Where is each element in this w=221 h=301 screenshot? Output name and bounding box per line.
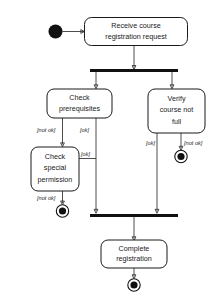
check-special-permission-node[interactable]: Check special permission (31, 147, 79, 191)
check-prerequisites-line1: Check (69, 93, 90, 102)
check-special-line2: special (44, 163, 67, 172)
guard-verify-ok: [ok] (145, 140, 155, 146)
end-node-special-permission-denied[interactable] (56, 205, 68, 217)
start-node[interactable] (49, 25, 63, 39)
receive-line2: registration request (105, 32, 167, 41)
complete-line2: registration (116, 254, 152, 263)
check-special-line3: permission (38, 175, 73, 184)
verify-line2: course not (160, 105, 194, 114)
check-special-line1: Check (45, 152, 66, 161)
end-node-course-full[interactable] (175, 150, 187, 162)
guard-special-ok: [ok] (80, 151, 90, 157)
guard-verify-not-ok: [not ok] (183, 140, 203, 146)
check-prerequisites-node[interactable]: Check prerequisites (47, 89, 112, 118)
receive-line1: Receive course (111, 21, 161, 30)
end-node-special-dot (59, 207, 66, 214)
end-node-full-dot (177, 153, 184, 160)
verify-line3: full (172, 117, 182, 126)
end-node-registration-complete[interactable] (128, 279, 140, 291)
end-node-complete-dot (130, 281, 137, 288)
check-prerequisites-line2: prerequisites (59, 104, 101, 113)
guard-prereq-ok: [ok] (79, 127, 89, 133)
receive-course-registration-request-node[interactable]: Receive course registration request (85, 18, 188, 46)
guard-special-not-ok: [not ok] (36, 195, 56, 201)
verify-line1: Verify (168, 94, 186, 103)
complete-registration-node[interactable]: Complete registration (101, 240, 167, 268)
guard-prereq-not-ok: [not ok] (36, 127, 56, 133)
diagram-svg: Receive course registration request Chec… (0, 0, 221, 301)
complete-line1: Complete (119, 244, 150, 253)
verify-course-not-full-node[interactable]: Verify course not full (148, 89, 205, 133)
activity-diagram-canvas: Receive course registration request Chec… (0, 0, 221, 301)
